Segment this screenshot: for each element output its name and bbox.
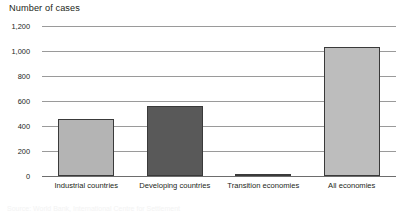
chart-figure: Number of cases 02004006008001,0001,200 … (0, 0, 404, 215)
bar-industrial-countries (58, 119, 114, 177)
y-tick-label: 600 (0, 97, 30, 106)
x-tick-label-industrial-countries: Industrial countries (54, 181, 118, 190)
bar-all-economies (324, 47, 380, 176)
y-tick-label: 1,000 (0, 47, 30, 56)
gridline-1200 (42, 26, 396, 27)
gridline-0 (42, 176, 396, 177)
plot-area: 02004006008001,0001,200 (42, 26, 396, 176)
y-tick-label: 400 (0, 122, 30, 131)
x-tick-label-all-economies: All economies (328, 181, 375, 190)
y-tick-label: 0 (0, 172, 30, 181)
x-tick-label-transition-economies: Transition economies (227, 181, 299, 190)
bar-developing-countries (147, 106, 203, 176)
x-tick-label-developing-countries: Developing countries (139, 181, 210, 190)
chart-title: Number of cases (9, 3, 80, 13)
footnote-text: Source: World Bank, International Centre… (7, 205, 247, 213)
bar-transition-economies (235, 174, 291, 176)
y-tick-label: 1,200 (0, 22, 30, 31)
y-tick-label: 800 (0, 72, 30, 81)
y-tick-label: 200 (0, 147, 30, 156)
x-axis-category-labels: Industrial countriesDeveloping countries… (42, 181, 396, 195)
